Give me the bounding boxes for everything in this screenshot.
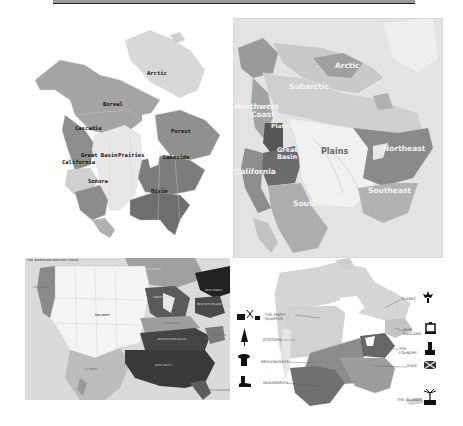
nation-label-greater-appalachia: GREATER APPALACHIA bbox=[157, 338, 186, 341]
fleur-de-lis-icon bbox=[422, 291, 434, 303]
oil-well-icon bbox=[237, 310, 261, 320]
region-label-northeast: Northeast bbox=[383, 144, 425, 153]
nation-label-midlands: MIDLANDS bbox=[165, 322, 179, 325]
nation-label-mexamerica: MEXAMERICA bbox=[263, 381, 288, 385]
nation-label-far-west: FAR WEST bbox=[95, 314, 110, 317]
american-nations-today-map: THE AMERICAN NATIONS TODAY LEFT COAST FA… bbox=[25, 258, 230, 400]
nation-label-first-nation: FIRST NATION bbox=[143, 268, 161, 271]
confederate-flag-icon bbox=[424, 361, 436, 369]
region-label-arctic: Arctic bbox=[335, 61, 360, 70]
nation-label-islands: THE ISLANDS bbox=[397, 398, 422, 402]
culture-regions-graphic bbox=[233, 18, 443, 258]
region-label-cascadia: Cascadia bbox=[75, 125, 102, 131]
nation-label-foundry: THE FOUNDRY bbox=[399, 347, 421, 355]
nation-label-yankeedom: YANKEEDOM bbox=[153, 296, 169, 299]
nation-label-tidewater: TIDEWATER bbox=[211, 334, 226, 337]
nations-regions-graphic bbox=[25, 258, 230, 400]
region-label-boreal: Boreal bbox=[103, 101, 123, 107]
region-label-california: California bbox=[235, 167, 276, 176]
nation-label-el-norte: EL NORTE bbox=[85, 368, 98, 371]
map-title: THE AMERICAN NATIONS TODAY bbox=[27, 259, 79, 262]
american-nations-icons-map: QUEBEC THE EMPTY QUARTER NEW ENGLAND ECO… bbox=[235, 258, 450, 410]
nation-label-breadbasket: BREADBASKET bbox=[261, 360, 289, 364]
region-label-forest: Forest bbox=[171, 128, 191, 134]
lantern-icon bbox=[425, 322, 436, 335]
region-label-dixie: Dixie bbox=[151, 188, 168, 194]
nation-label-left-coast: LEFT COAST bbox=[33, 286, 49, 289]
nation-label-dixie: DIXIE bbox=[407, 364, 417, 368]
region-label-plains: Plains bbox=[321, 147, 348, 156]
culture-areas-map: Arctic Boreal Cascadia Forest Great Basi… bbox=[30, 20, 230, 240]
nation-label-empty-quarter: THE EMPTY QUARTER bbox=[265, 313, 293, 321]
nation-label-new-netherland: NEW NETHERLAND bbox=[197, 303, 222, 306]
region-label-great-basin: Great Basin bbox=[81, 152, 117, 158]
nation-label-ecotopia: ECOTOPIA bbox=[263, 338, 282, 342]
factory-icon bbox=[425, 342, 435, 355]
region-label-basin: Basin bbox=[277, 153, 297, 161]
nation-label-new-france: NEW FRANCE bbox=[205, 289, 222, 292]
palm-tree-icon bbox=[424, 389, 436, 405]
nation-label-new-england: NEW ENGLAND bbox=[403, 328, 421, 336]
cowboy-boot-icon bbox=[239, 376, 251, 387]
region-label-lakeside: Lakeside bbox=[163, 154, 190, 160]
top-divider-rule bbox=[53, 0, 415, 4]
region-label-plateau: Plateau bbox=[271, 122, 297, 129]
region-label-southeast: Southeast bbox=[368, 186, 411, 195]
north-america-regions-graphic bbox=[30, 20, 230, 240]
region-label-arctic: Arctic bbox=[147, 70, 167, 76]
region-label-subarctic: Subarctic bbox=[289, 82, 329, 91]
region-label-prairies: Prairies bbox=[118, 152, 145, 158]
nation-label-spanish-caribbean: SPANISH CARIBBEAN bbox=[203, 389, 230, 392]
pine-tree-icon bbox=[241, 328, 248, 346]
nation-label-deep-south: DEEP SOUTH bbox=[155, 364, 172, 367]
region-label-southwest: Southwest bbox=[293, 199, 338, 208]
native-culture-regions-map: Arctic Subarctic Northwest Coast Plateau… bbox=[233, 18, 443, 258]
nation-label-quebec: QUEBEC bbox=[401, 297, 417, 301]
region-label-coast: Coast bbox=[251, 110, 275, 119]
region-label-california: California bbox=[62, 159, 95, 165]
region-label-sonora: Sonora bbox=[88, 178, 108, 184]
grain-silo-icon bbox=[238, 354, 250, 366]
